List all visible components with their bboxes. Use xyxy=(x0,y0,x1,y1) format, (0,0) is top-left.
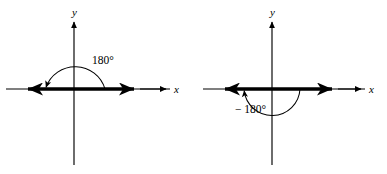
x-axis-label: x xyxy=(368,83,374,95)
y-axis-label: y xyxy=(71,6,77,18)
angle-arc-counterclockwise xyxy=(46,67,105,89)
x-axis-label: x xyxy=(173,83,179,95)
diagram-panel-180: y x 180° xyxy=(0,0,193,174)
diagram-panel-negative-180: y x − 180° xyxy=(193,0,387,174)
angle-measure-label: 180° xyxy=(92,54,114,66)
angle-measure-label: − 180° xyxy=(235,103,267,115)
angle-diagram-figure: y x 180° xyxy=(0,0,387,174)
y-axis-label: y xyxy=(269,6,275,18)
